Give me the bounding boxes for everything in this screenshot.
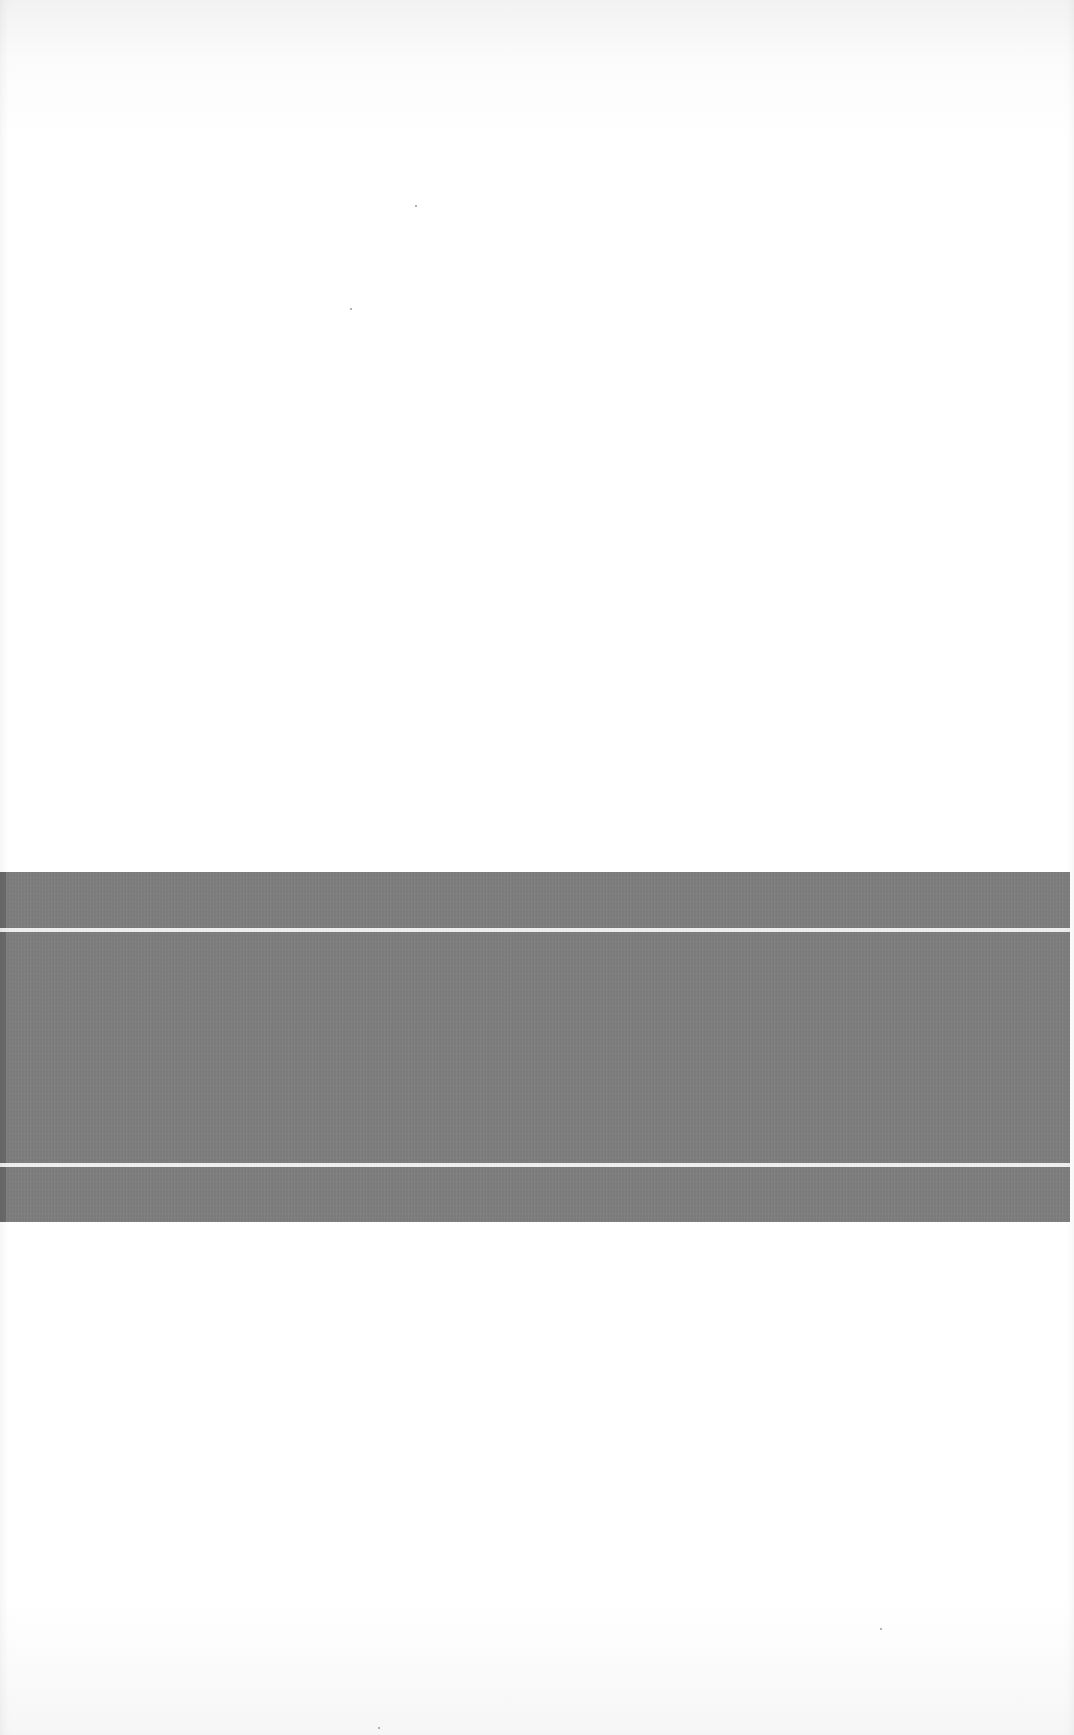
speck (350, 308, 352, 310)
speck (880, 1628, 882, 1630)
paper-sheet (0, 0, 1074, 1735)
speck (415, 205, 417, 207)
white-line-top (0, 928, 1070, 932)
speck (378, 1727, 380, 1729)
band-left-edge (0, 872, 6, 1222)
white-line-bottom (0, 1163, 1070, 1167)
gray-band (0, 872, 1070, 1222)
